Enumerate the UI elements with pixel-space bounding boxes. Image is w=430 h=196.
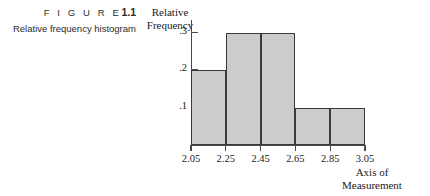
figure-caption: F I G U R E1.1 Relative frequency histog…	[0, 6, 140, 35]
histogram-bar	[226, 33, 261, 146]
x-tick-label: 2.65	[286, 153, 304, 164]
x-tick-label: 2.85	[321, 153, 339, 164]
x-axis-title-line2: Measurement	[316, 179, 428, 192]
histogram-bar	[261, 33, 296, 146]
y-axis-title-line1: Relative	[144, 6, 196, 19]
histogram-plot: Relative Frequency .1.2.3 2.052.252.452.…	[140, 0, 430, 196]
x-tick	[330, 145, 331, 151]
x-axis-title-line1: Axis of	[316, 166, 428, 179]
y-tick-label: .3	[179, 25, 187, 36]
x-tick-label: 3.05	[356, 153, 374, 164]
x-tick	[190, 145, 191, 151]
figure-label: F I G U R E1.1	[0, 6, 136, 19]
figure-word: F I G U R E	[44, 7, 122, 18]
x-tick	[295, 145, 296, 151]
figure-number: 1.1	[121, 6, 136, 18]
y-tick-label: .1	[179, 100, 187, 111]
y-tick-label: .2	[179, 62, 187, 73]
x-tick-label: 2.05	[182, 153, 200, 164]
y-tick: .3	[191, 32, 198, 33]
histogram-bar	[295, 108, 330, 146]
x-axis-title: Axis of Measurement	[316, 166, 428, 192]
y-axis-title: Relative Frequency	[144, 6, 196, 32]
histogram-bar	[191, 70, 226, 145]
y-axis-title-line2: Frequency	[144, 19, 196, 32]
x-tick	[364, 145, 365, 151]
histogram-bar	[330, 108, 365, 146]
x-tick-label: 2.45	[251, 153, 269, 164]
x-tick	[260, 145, 261, 151]
figure-container: F I G U R E1.1 Relative frequency histog…	[0, 0, 430, 196]
x-tick-label: 2.25	[217, 153, 235, 164]
x-tick	[225, 145, 226, 151]
figure-description: Relative frequency histogram	[0, 22, 136, 35]
